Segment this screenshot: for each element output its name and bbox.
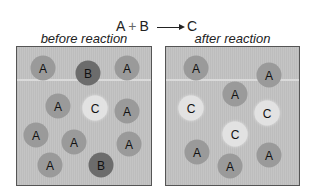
molecule-a: A [184,56,209,81]
molecule-a: A [223,82,248,107]
reaction-arrow-icon [157,27,183,28]
molecule-a: A [31,56,56,81]
after-reaction-label: after reaction [165,31,300,46]
before-reaction-label: before reaction [16,31,152,46]
molecule-c: C [223,122,248,147]
molecule-a: A [185,140,210,165]
molecule-c: C [255,101,280,126]
molecule-a: A [218,154,243,179]
molecule-a: A [46,94,71,119]
molecule-a: A [117,132,142,157]
molecule-a: A [62,130,87,155]
molecule-c: C [179,96,204,121]
before-reaction-container: ABAACAAAAAB [16,46,152,186]
molecule-a: A [115,56,140,81]
molecule-a: A [257,63,282,88]
molecule-c: C [83,96,108,121]
molecule-a: A [24,123,49,148]
after-reaction-container: AAACCCAAA [165,46,300,186]
molecule-a: A [115,99,140,124]
molecule-a: A [38,153,63,178]
molecule-b: B [89,153,114,178]
molecule-a: A [257,143,282,168]
molecule-b: B [76,61,101,86]
